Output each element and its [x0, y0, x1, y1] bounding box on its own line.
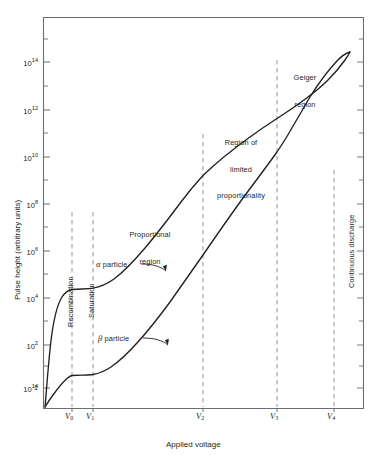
region-label-limited-proportionality: Region of limited proportionality [205, 122, 277, 218]
y-tick-label-102: 102 [8, 340, 38, 351]
geiger-region-line1: Geiger [280, 74, 330, 83]
beta-particle-leader [143, 337, 171, 345]
region-label-continuous-discharge: Continuous discharge [348, 215, 357, 289]
x-axis-title: Applied voltage [166, 440, 221, 449]
limited-proportionality-line1: Region of [205, 139, 277, 148]
y-axis-minor-ticks [44, 39, 49, 366]
region-label-recombination: Recombination [67, 276, 76, 327]
series-label-beta-particle: β particle [98, 333, 129, 344]
region-label-geiger-region: Geiger region [280, 57, 330, 127]
x-tick-label-v0: V0 [65, 412, 73, 421]
proportional-region-line1: Proportional [108, 231, 192, 240]
region-label-saturation: Saturation [88, 283, 97, 318]
y-axis-title: Pulse height (arbitrary units) [13, 200, 22, 300]
geiger-region-line2: region [280, 101, 330, 110]
x-tick-label-v1: V1 [86, 412, 94, 421]
y-tick-label-1012: 1012 [8, 105, 38, 116]
y-axis-right-ticks [357, 39, 364, 388]
region-label-proportional-region: Proportional region [108, 214, 192, 284]
y-tick-label-1010: 1010 [8, 152, 38, 163]
y-axis-major-ticks [44, 62, 51, 388]
alpha-particle-text: particle [103, 260, 128, 269]
limited-proportionality-line2: limited [205, 166, 277, 175]
y-tick-label-1: 1 [8, 383, 38, 392]
beta-particle-text: particle [105, 334, 130, 343]
x-tick-label-v2: V2 [196, 412, 204, 421]
x-tick-label-v3: V3 [270, 412, 278, 421]
beta-symbol: β [98, 333, 102, 343]
limited-proportionality-line3: proportionality [205, 192, 277, 201]
gas-detector-pulse-height-chart: 1014 1014 1012 1010 108 106 104 102 1 Pu… [0, 0, 380, 461]
alpha-symbol: α [96, 259, 101, 269]
x-tick-label-v4: V4 [327, 412, 335, 421]
series-label-alpha-particle: α particle [96, 259, 127, 270]
y-tick-label-1014: 1014 [8, 57, 38, 68]
